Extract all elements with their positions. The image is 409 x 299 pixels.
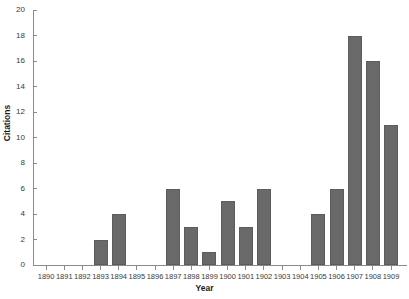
citations-by-year-bar-chart: 02468101214161820 1890189118921893189418…	[0, 0, 409, 299]
y-tick-label: 2	[21, 234, 25, 245]
x-tick-mark	[263, 266, 264, 270]
bar-1897	[166, 189, 180, 266]
y-tick-label: 0	[21, 259, 25, 270]
x-tick-mark	[354, 266, 355, 270]
y-tick-label: 8	[21, 157, 25, 168]
x-axis-line	[33, 265, 407, 266]
bar-1898	[184, 227, 198, 265]
y-tick-label: 18	[16, 30, 25, 41]
bars-layer	[33, 10, 407, 265]
x-tick-mark	[391, 266, 392, 270]
x-tick-mark	[282, 266, 283, 270]
bar-1893	[94, 240, 108, 266]
y-tick-label: 14	[16, 81, 25, 92]
x-tick-mark	[100, 266, 101, 270]
bar-1901	[239, 227, 253, 265]
x-tick-mark	[245, 266, 246, 270]
x-tick-mark	[136, 266, 137, 270]
bar-1894	[112, 214, 126, 265]
y-tick-label: 10	[16, 132, 25, 143]
bar-1905	[311, 214, 325, 265]
x-tick-mark	[155, 266, 156, 270]
x-tick-mark	[209, 266, 210, 270]
x-tick-mark	[300, 266, 301, 270]
bar-1906	[330, 189, 344, 266]
bar-1909	[384, 125, 398, 265]
x-tick-mark	[336, 266, 337, 270]
x-tick-mark	[191, 266, 192, 270]
bar-1902	[257, 189, 271, 266]
x-tick-mark	[318, 266, 319, 270]
bar-1907	[348, 36, 362, 266]
y-tick-label: 16	[16, 55, 25, 66]
bar-1900	[221, 201, 235, 265]
y-tick-label: 12	[16, 106, 25, 117]
y-tick-label: 4	[21, 208, 25, 219]
bar-1908	[366, 61, 380, 265]
x-tick-mark	[64, 266, 65, 270]
x-tick-mark	[46, 266, 47, 270]
x-axis-title: Year	[0, 283, 409, 293]
y-tick-label: 20	[16, 4, 25, 15]
x-tick-label: 1909	[373, 272, 409, 281]
x-tick-mark	[118, 266, 119, 270]
x-tick-mark	[227, 266, 228, 270]
bar-1899	[202, 252, 216, 265]
x-tick-mark	[372, 266, 373, 270]
x-tick-mark	[82, 266, 83, 270]
x-tick-mark	[173, 266, 174, 270]
y-tick-label: 6	[21, 183, 25, 194]
y-axis-title: Citations	[2, 78, 12, 168]
